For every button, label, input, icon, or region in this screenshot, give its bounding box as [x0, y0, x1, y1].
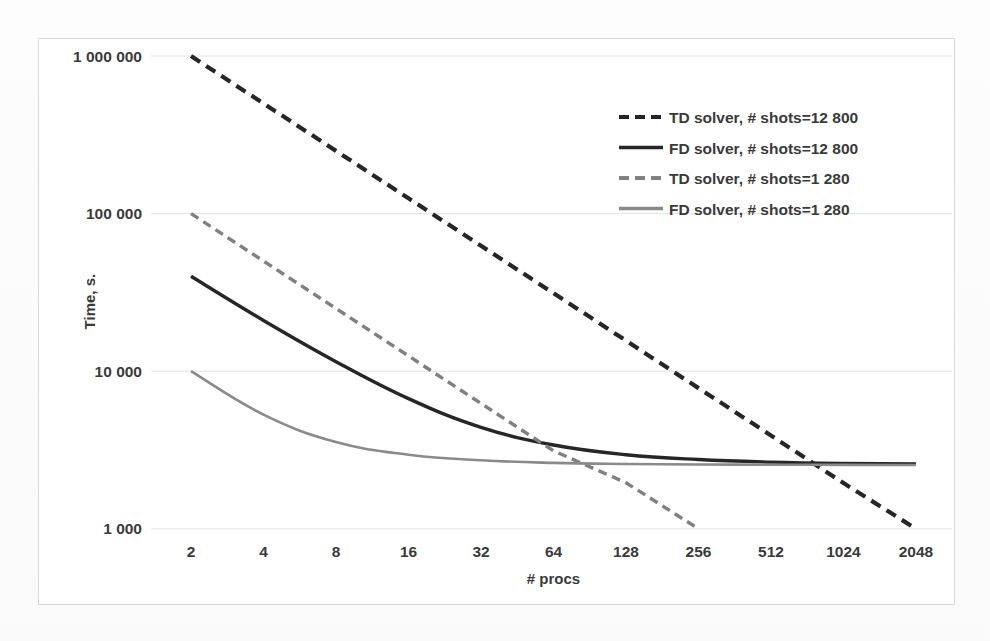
x-tick-label: 512	[758, 543, 784, 560]
x-axis-title: # procs	[527, 570, 580, 587]
x-tick-label: 8	[332, 543, 341, 560]
legend-label-1: FD solver, # shots=12 800	[669, 140, 858, 157]
x-tick-label: 256	[686, 543, 712, 560]
x-tick-label: 32	[472, 543, 489, 560]
gridlines-group	[151, 56, 952, 529]
x-tick-label: 16	[400, 543, 418, 560]
y-tick-label: 1 000	[103, 520, 142, 537]
scanned-page-background: 1 000 000100 00010 0001 000 248163264128…	[0, 0, 990, 641]
x-tick-label: 2048	[899, 543, 934, 560]
legend-label-0: TD solver, # shots=12 800	[669, 109, 858, 126]
legend-label-3: FD solver, # shots=1 280	[669, 201, 850, 218]
y-tick-label: 10 000	[95, 363, 142, 380]
series-line-3	[191, 371, 916, 465]
x-tick-label: 128	[613, 543, 639, 560]
chart-legend: TD solver, # shots=12 800FD solver, # sh…	[619, 109, 858, 218]
series-line-1	[191, 276, 916, 464]
x-axis-tick-labels: 24816326412825651210242048	[187, 543, 934, 560]
series-line-0	[191, 56, 916, 529]
x-tick-label: 2	[187, 543, 196, 560]
x-tick-label: 64	[545, 543, 563, 560]
chart-frame: 1 000 000100 00010 0001 000 248163264128…	[38, 38, 955, 605]
x-tick-label: 4	[259, 543, 268, 560]
legend-label-2: TD solver, # shots=1 280	[669, 170, 850, 187]
y-tick-label: 1 000 000	[73, 48, 142, 65]
chart-plot-area: 1 000 000100 00010 0001 000 248163264128…	[39, 39, 954, 604]
y-tick-label: 100 000	[86, 205, 142, 222]
y-axis-title: Time, s.	[81, 274, 98, 330]
axis-titles: # procsTime, s.	[81, 274, 580, 587]
series-group	[191, 56, 916, 529]
x-tick-label: 1024	[826, 543, 861, 560]
